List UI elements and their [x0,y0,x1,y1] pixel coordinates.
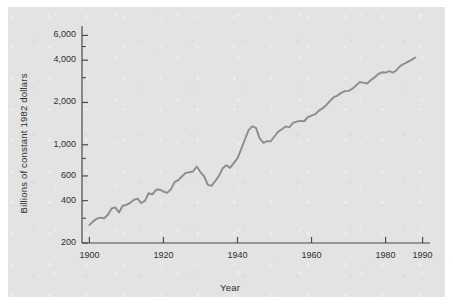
x-tick-label: 1900 [69,250,109,260]
y-tick-label: 6,000 [36,29,76,39]
x-tick-label: 1980 [366,250,406,260]
gnp-line-series [89,57,415,225]
y-tick-label: 400 [36,195,76,205]
y-axis-title: Billions of constant 1982 dollars [18,59,29,229]
y-tick-label: 600 [36,170,76,180]
x-axis-title: Year [180,282,280,293]
x-tick-label: 1960 [292,250,332,260]
y-axis-ticks [82,35,88,243]
x-tick-label: 1990 [403,250,443,260]
y-tick-label: 2,000 [36,96,76,106]
chart-figure: Billions of constant 1982 dollars Year 2… [0,0,453,304]
y-tick-label: 200 [36,237,76,247]
x-tick-label: 1920 [143,250,183,260]
x-axis-ticks [89,237,422,243]
x-tick-label: 1940 [217,250,257,260]
y-tick-label: 1,000 [36,139,76,149]
y-tick-label: 4,000 [36,54,76,64]
